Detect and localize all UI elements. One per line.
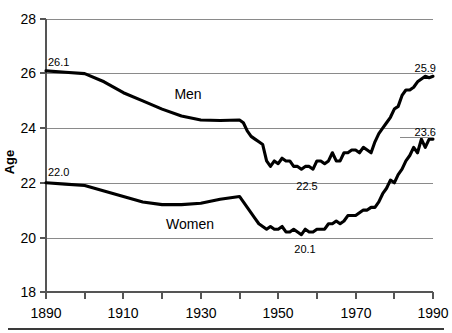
x-tick-label-1970: 1970 <box>340 305 371 321</box>
annotation-men-min: 22.5 <box>296 180 317 192</box>
chart-figure: 28 26 24 22 20 18 1890 1910 1930 1950 19… <box>0 0 452 333</box>
annotation-women-start: 22.0 <box>48 166 69 178</box>
y-axis-title: Age <box>2 150 17 175</box>
y-tick-label-26: 26 <box>20 65 36 81</box>
y-tick-label-18: 18 <box>20 284 36 300</box>
y-tick-label-22: 22 <box>20 175 36 191</box>
annotation-men-end: 25.9 <box>415 62 436 74</box>
annotation-women-end: 23.6 <box>415 126 436 138</box>
annotation-men-start: 26.1 <box>48 56 69 68</box>
series-label-women: Women <box>166 216 214 232</box>
x-tick-label-1910: 1910 <box>107 305 138 321</box>
y-tick-label-20: 20 <box>20 230 36 246</box>
age-at-first-marriage-line-chart: 28 26 24 22 20 18 1890 1910 1930 1950 19… <box>0 0 452 333</box>
x-tick-label-1950: 1950 <box>262 305 293 321</box>
x-tick-label-1930: 1930 <box>185 305 216 321</box>
series-label-men: Men <box>174 86 201 102</box>
x-tick-label-1990: 1990 <box>417 305 448 321</box>
y-tick-label-24: 24 <box>20 120 36 136</box>
y-tick-label-28: 28 <box>20 11 36 27</box>
x-tick-label-1890: 1890 <box>30 305 61 321</box>
annotation-women-min: 20.1 <box>294 243 315 255</box>
